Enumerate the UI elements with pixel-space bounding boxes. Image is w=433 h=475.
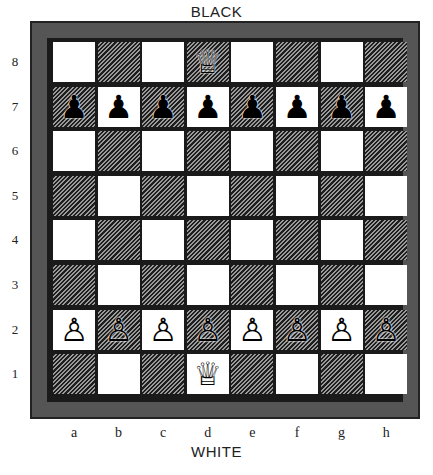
rank-label-1: 1 bbox=[8, 366, 22, 382]
white-queen-icon[interactable]: ♕ bbox=[193, 358, 222, 390]
file-label-c: c bbox=[153, 425, 173, 441]
file-label-g: g bbox=[332, 425, 352, 441]
rank-label-5: 5 bbox=[8, 188, 22, 204]
rank-label-7: 7 bbox=[8, 99, 22, 115]
white-pawn-icon[interactable]: ♙ bbox=[104, 314, 133, 346]
chess-board-frame: ♕♟♟♟♟♟♟♟♟♙♙♙♙♙♙♙♙♕ bbox=[30, 21, 420, 419]
square-d7[interactable]: ♟ bbox=[187, 87, 229, 127]
square-b6[interactable] bbox=[98, 131, 140, 171]
black-queen-icon[interactable]: ♕ bbox=[193, 46, 222, 78]
square-f5[interactable] bbox=[276, 176, 318, 216]
rank-label-6: 6 bbox=[8, 143, 22, 159]
square-b4[interactable] bbox=[98, 220, 140, 260]
square-f7[interactable]: ♟ bbox=[276, 87, 318, 127]
square-d6[interactable] bbox=[187, 131, 229, 171]
square-g3[interactable] bbox=[321, 265, 363, 305]
square-e2[interactable]: ♙ bbox=[231, 310, 273, 350]
rank-label-4: 4 bbox=[8, 232, 22, 248]
square-a2[interactable]: ♙ bbox=[53, 310, 95, 350]
square-h5[interactable] bbox=[365, 176, 407, 216]
square-c8[interactable] bbox=[142, 42, 184, 82]
file-label-a: a bbox=[64, 425, 84, 441]
square-b2[interactable]: ♙ bbox=[98, 310, 140, 350]
square-e8[interactable] bbox=[231, 42, 273, 82]
file-label-h: h bbox=[376, 425, 396, 441]
black-pawn-icon[interactable]: ♟ bbox=[238, 91, 267, 123]
file-label-e: e bbox=[242, 425, 262, 441]
square-g5[interactable] bbox=[321, 176, 363, 216]
square-b5[interactable] bbox=[98, 176, 140, 216]
square-h1[interactable] bbox=[365, 354, 407, 394]
square-c5[interactable] bbox=[142, 176, 184, 216]
square-f6[interactable] bbox=[276, 131, 318, 171]
square-d4[interactable] bbox=[187, 220, 229, 260]
square-d5[interactable] bbox=[187, 176, 229, 216]
square-f2[interactable]: ♙ bbox=[276, 310, 318, 350]
square-g7[interactable]: ♟ bbox=[321, 87, 363, 127]
chess-board: ♕♟♟♟♟♟♟♟♟♙♙♙♙♙♙♙♙♕ bbox=[47, 38, 403, 402]
square-e4[interactable] bbox=[231, 220, 273, 260]
file-label-b: b bbox=[109, 425, 129, 441]
rank-label-8: 8 bbox=[8, 54, 22, 70]
square-c6[interactable] bbox=[142, 131, 184, 171]
square-a8[interactable] bbox=[53, 42, 95, 82]
square-c1[interactable] bbox=[142, 354, 184, 394]
white-pawn-icon[interactable]: ♙ bbox=[60, 314, 89, 346]
white-pawn-icon[interactable]: ♙ bbox=[149, 314, 178, 346]
square-f4[interactable] bbox=[276, 220, 318, 260]
square-a4[interactable] bbox=[53, 220, 95, 260]
square-c3[interactable] bbox=[142, 265, 184, 305]
square-e7[interactable]: ♟ bbox=[231, 87, 273, 127]
square-b1[interactable] bbox=[98, 354, 140, 394]
square-b3[interactable] bbox=[98, 265, 140, 305]
square-e5[interactable] bbox=[231, 176, 273, 216]
square-a7[interactable]: ♟ bbox=[53, 87, 95, 127]
square-c7[interactable]: ♟ bbox=[142, 87, 184, 127]
square-h7[interactable]: ♟ bbox=[365, 87, 407, 127]
square-e1[interactable] bbox=[231, 354, 273, 394]
square-a1[interactable] bbox=[53, 354, 95, 394]
square-h8[interactable] bbox=[365, 42, 407, 82]
square-g2[interactable]: ♙ bbox=[321, 310, 363, 350]
square-h2[interactable]: ♙ bbox=[365, 310, 407, 350]
black-pawn-icon[interactable]: ♟ bbox=[149, 91, 178, 123]
black-pawn-icon[interactable]: ♟ bbox=[60, 91, 89, 123]
black-pawn-icon[interactable]: ♟ bbox=[104, 91, 133, 123]
black-pawn-icon[interactable]: ♟ bbox=[372, 91, 401, 123]
white-pawn-icon[interactable]: ♙ bbox=[193, 314, 222, 346]
black-side-label: BLACK bbox=[0, 3, 433, 20]
square-f1[interactable] bbox=[276, 354, 318, 394]
square-a6[interactable] bbox=[53, 131, 95, 171]
square-g4[interactable] bbox=[321, 220, 363, 260]
black-pawn-icon[interactable]: ♟ bbox=[283, 91, 312, 123]
square-e3[interactable] bbox=[231, 265, 273, 305]
square-h6[interactable] bbox=[365, 131, 407, 171]
square-c4[interactable] bbox=[142, 220, 184, 260]
square-h4[interactable] bbox=[365, 220, 407, 260]
square-e6[interactable] bbox=[231, 131, 273, 171]
square-a3[interactable] bbox=[53, 265, 95, 305]
rank-label-3: 3 bbox=[8, 277, 22, 293]
white-pawn-icon[interactable]: ♙ bbox=[372, 314, 401, 346]
square-g8[interactable] bbox=[321, 42, 363, 82]
square-a5[interactable] bbox=[53, 176, 95, 216]
file-label-d: d bbox=[198, 425, 218, 441]
black-pawn-icon[interactable]: ♟ bbox=[327, 91, 356, 123]
black-pawn-icon[interactable]: ♟ bbox=[193, 91, 222, 123]
square-d3[interactable] bbox=[187, 265, 229, 305]
square-b7[interactable]: ♟ bbox=[98, 87, 140, 127]
square-f8[interactable] bbox=[276, 42, 318, 82]
square-d1[interactable]: ♕ bbox=[187, 354, 229, 394]
rank-label-2: 2 bbox=[8, 322, 22, 338]
square-d8[interactable]: ♕ bbox=[187, 42, 229, 82]
square-f3[interactable] bbox=[276, 265, 318, 305]
square-h3[interactable] bbox=[365, 265, 407, 305]
white-pawn-icon[interactable]: ♙ bbox=[327, 314, 356, 346]
square-c2[interactable]: ♙ bbox=[142, 310, 184, 350]
square-d2[interactable]: ♙ bbox=[187, 310, 229, 350]
square-b8[interactable] bbox=[98, 42, 140, 82]
white-pawn-icon[interactable]: ♙ bbox=[238, 314, 267, 346]
white-pawn-icon[interactable]: ♙ bbox=[283, 314, 312, 346]
square-g1[interactable] bbox=[321, 354, 363, 394]
square-g6[interactable] bbox=[321, 131, 363, 171]
